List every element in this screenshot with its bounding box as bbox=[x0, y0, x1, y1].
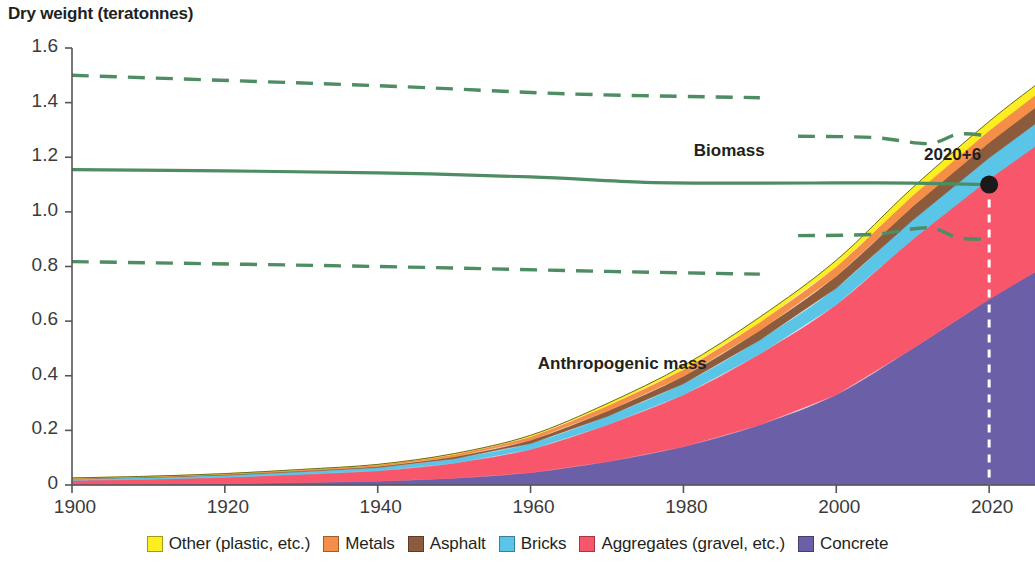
legend-swatch-icon bbox=[798, 536, 814, 552]
legend-item-label: Asphalt bbox=[430, 534, 486, 554]
biomass-line bbox=[72, 170, 989, 185]
y-axis-tick-label: 0.6 bbox=[0, 308, 58, 330]
legend-swatch-icon bbox=[408, 536, 424, 552]
x-axis-tick-label: 1920 bbox=[198, 496, 258, 518]
legend-swatch-icon bbox=[147, 536, 163, 552]
legend-item[interactable]: Bricks bbox=[499, 534, 567, 554]
chart-legend: Other (plastic, etc.)MetalsAsphaltBricks… bbox=[0, 534, 1035, 554]
y-axis-tick-label: 0 bbox=[0, 472, 58, 494]
legend-item-label: Concrete bbox=[820, 534, 888, 554]
x-axis-tick-label: 2000 bbox=[809, 496, 869, 518]
legend-item[interactable]: Other (plastic, etc.) bbox=[147, 534, 311, 554]
legend-item-label: Aggregates (gravel, etc.) bbox=[601, 534, 785, 554]
legend-item-label: Bricks bbox=[521, 534, 567, 554]
legend-item-label: Other (plastic, etc.) bbox=[169, 534, 311, 554]
x-axis-tick-label: 1980 bbox=[656, 496, 716, 518]
legend-item-label: Metals bbox=[345, 534, 394, 554]
legend-item[interactable]: Asphalt bbox=[408, 534, 486, 554]
y-axis-tick-label: 1.0 bbox=[0, 199, 58, 221]
biomass-series-label: Biomass bbox=[694, 141, 765, 161]
biomass-lower-bound-segment-0 bbox=[72, 262, 760, 275]
y-axis-tick-label: 0.4 bbox=[0, 363, 58, 385]
crossover-point-label: 2020+6 bbox=[924, 145, 981, 165]
crossover-point-marker bbox=[980, 176, 998, 194]
y-axis-tick-label: 1.4 bbox=[0, 90, 58, 112]
legend-swatch-icon bbox=[579, 536, 595, 552]
legend-swatch-icon bbox=[323, 536, 339, 552]
biomass-upper-bound-segment-1 bbox=[798, 134, 989, 144]
chart-figure: Dry weight (teratonnes) 00.20.40.60.81.0… bbox=[0, 0, 1035, 565]
x-axis-tick-label: 1940 bbox=[351, 496, 411, 518]
y-axis-tick-label: 0.2 bbox=[0, 417, 58, 439]
chart-plot-area bbox=[0, 0, 1035, 565]
biomass-upper-bound-segment-0 bbox=[72, 75, 760, 97]
legend-item[interactable]: Concrete bbox=[798, 534, 888, 554]
x-axis-tick-label: 2020 bbox=[962, 496, 1022, 518]
legend-item[interactable]: Aggregates (gravel, etc.) bbox=[579, 534, 785, 554]
y-axis-tick-label: 0.8 bbox=[0, 254, 58, 276]
legend-item[interactable]: Metals bbox=[323, 534, 394, 554]
y-axis-tick-label: 1.6 bbox=[0, 35, 58, 57]
x-axis-tick-label: 1900 bbox=[45, 496, 105, 518]
anthropogenic-series-label: Anthropogenic mass bbox=[538, 354, 707, 374]
y-axis-tick-label: 1.2 bbox=[0, 144, 58, 166]
x-axis-tick-label: 1960 bbox=[504, 496, 564, 518]
legend-swatch-icon bbox=[499, 536, 515, 552]
